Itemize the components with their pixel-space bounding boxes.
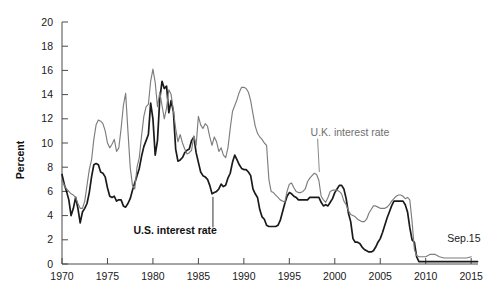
y-tick-label: 16 xyxy=(41,64,53,76)
y-tick-label: 8 xyxy=(47,161,53,173)
y-tick-label: 4 xyxy=(47,209,53,221)
x-tick-label: 2015 xyxy=(460,270,484,282)
chart-canvas: 02468101214161820 1970197519801985199019… xyxy=(0,0,504,305)
x-tick-label: 1980 xyxy=(141,270,165,282)
x-tick-label: 1970 xyxy=(50,270,74,282)
us-series-label: U.S. interest rate xyxy=(133,224,217,236)
endpoint-note-label: Sep.15 xyxy=(447,232,480,244)
y-tick-label: 2 xyxy=(47,233,53,245)
y-tick-label: 18 xyxy=(41,40,53,52)
series-lines xyxy=(62,69,478,261)
uk-series-label: U.K. interest rate xyxy=(311,126,390,138)
x-tick-label: 1985 xyxy=(187,270,211,282)
x-tick-label: 2000 xyxy=(323,270,347,282)
y-tick-label: 14 xyxy=(41,88,53,100)
series-line xyxy=(62,81,478,261)
y-tick-label: 10 xyxy=(41,137,53,149)
y-tick-label: 0 xyxy=(47,258,53,270)
x-tick-label: 1975 xyxy=(96,270,120,282)
y-tick-label: 6 xyxy=(47,185,53,197)
uk-leader-line xyxy=(318,139,320,172)
y-axis-title: Percent xyxy=(14,140,26,179)
y-axis: 02468101214161820 xyxy=(41,16,68,270)
x-tick-label: 1990 xyxy=(232,270,256,282)
x-tick-label: 2010 xyxy=(414,270,438,282)
x-tick-label: 1995 xyxy=(278,270,302,282)
y-tick-label: 12 xyxy=(41,112,53,124)
y-tick-label: 20 xyxy=(41,16,53,28)
x-tick-label: 2005 xyxy=(369,270,393,282)
interest-rate-chart: 02468101214161820 1970197519801985199019… xyxy=(0,0,504,305)
